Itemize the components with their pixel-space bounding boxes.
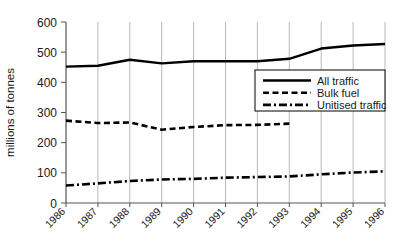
y-tick-label-100: 100 [37, 166, 57, 180]
y-tick-label-200: 200 [37, 136, 57, 150]
y-tick-label-400: 400 [37, 76, 57, 90]
y-tick-label-600: 600 [37, 16, 57, 30]
chart-legend: All trafficBulk fuelUnitised traffic [255, 70, 387, 111]
y-tick-label-300: 300 [37, 106, 57, 120]
legend-label-bulk-fuel: Bulk fuel [317, 87, 359, 99]
y-axis-title: millions of tonnes [4, 68, 16, 157]
line-chart: 0100200300400500600 19861987198819891990… [0, 0, 412, 247]
chart-container: 0100200300400500600 19861987198819891990… [0, 0, 412, 247]
legend-label-unitised-traffic: Unitised traffic [317, 99, 387, 111]
y-tick-label-500: 500 [37, 46, 57, 60]
legend-label-all-traffic: All traffic [317, 75, 359, 87]
